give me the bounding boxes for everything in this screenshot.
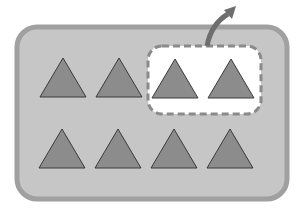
diagram-canvas	[0, 0, 302, 215]
